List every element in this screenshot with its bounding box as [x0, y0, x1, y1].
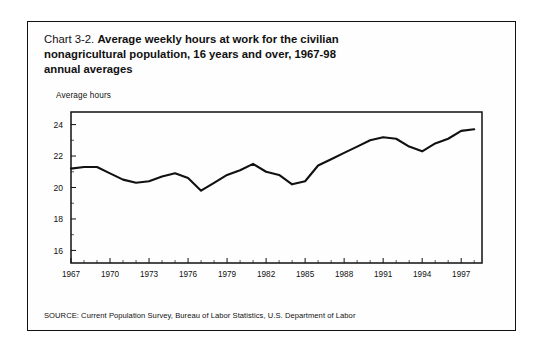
chart-figure-card: Chart 3-2. Average weekly hours at work …: [27, 21, 516, 331]
data-series-line: [71, 129, 474, 190]
x-tick-label: 1976: [179, 270, 198, 279]
plot-frame: [71, 112, 482, 263]
plot-area: 1618202224 19671970197319761979198219851…: [28, 22, 517, 332]
x-tick-label: 1988: [335, 270, 354, 279]
x-tick-label: 1997: [452, 270, 471, 279]
x-tick-label: 1967: [62, 270, 81, 279]
y-tick-label: 24: [53, 120, 63, 130]
x-tick-label: 1991: [374, 270, 393, 279]
y-tick-label: 22: [53, 151, 63, 161]
x-tick-label: 1994: [413, 270, 432, 279]
y-axis-tick-labels: 1618202224: [53, 120, 63, 256]
y-tick-label: 16: [53, 246, 63, 256]
x-tick-label: 1979: [218, 270, 237, 279]
source-note: SOURCE: Current Population Survey, Burea…: [44, 311, 355, 320]
y-tick-label: 18: [53, 214, 63, 224]
x-tick-label: 1973: [140, 270, 159, 279]
x-axis-tick-labels: 1967197019731976197919821985198819911994…: [62, 270, 471, 279]
x-tick-label: 1985: [296, 270, 315, 279]
x-tick-label: 1970: [101, 270, 120, 279]
x-tick-label: 1982: [257, 270, 276, 279]
axis-tick-marks: [71, 125, 474, 263]
chart-svg: 1618202224 19671970197319761979198219851…: [28, 22, 517, 332]
y-tick-label: 20: [53, 183, 63, 193]
